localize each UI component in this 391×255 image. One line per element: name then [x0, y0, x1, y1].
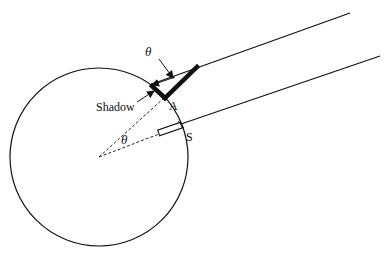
- point-s-label: S: [186, 130, 193, 144]
- shadow-arrow-icon: [137, 91, 154, 102]
- sun-ray-lower: [181, 56, 380, 124]
- theta-arrow-icon: [159, 59, 173, 78]
- well-at-s: [158, 122, 183, 135]
- theta-top-label: θ: [145, 44, 152, 59]
- radius-to-s: [99, 134, 159, 157]
- sun-ray-upper: [152, 13, 350, 84]
- gnomon-stick: [165, 67, 197, 98]
- eratosthenes-diagram: θ θ Shadow A S: [0, 0, 391, 255]
- ray-arrow-icon: [152, 77, 175, 85]
- point-a-label: A: [169, 99, 178, 113]
- gnomon-shadow: [152, 86, 165, 98]
- shadow-label: Shadow: [96, 100, 135, 114]
- theta-center-label: θ: [121, 132, 128, 147]
